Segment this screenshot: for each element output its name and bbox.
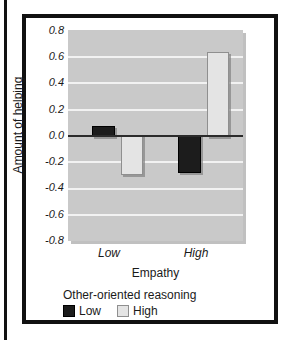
- y-tick-2: 0.4: [26, 77, 64, 88]
- figure-frame-right: [274, 14, 278, 324]
- figure: Amount of helping 0.8 0.6 0.4 0.2 0.0 -0…: [0, 0, 290, 340]
- y-tick-7: -0.6: [26, 209, 64, 220]
- y-tick-1: 0.6: [26, 51, 64, 62]
- bar-high-empathy-low-reasoning: [178, 135, 201, 173]
- legend-swatch-dark-icon: [63, 305, 75, 317]
- y-axis-title: Amount of helping: [11, 60, 25, 190]
- legend: Other-oriented reasoning Low High: [63, 288, 263, 318]
- y-tick-3: 0.2: [26, 104, 64, 115]
- legend-item-low: Low: [63, 304, 101, 318]
- gridline--0.6: [68, 214, 243, 216]
- plot-area: [68, 30, 243, 241]
- legend-label-low: Low: [79, 304, 101, 318]
- legend-title: Other-oriented reasoning: [63, 288, 263, 302]
- y-tick-5: -0.2: [26, 156, 64, 167]
- legend-items: Low High: [63, 304, 263, 318]
- legend-label-high: High: [133, 304, 158, 318]
- x-tick-low: Low: [79, 246, 139, 260]
- y-tick-6: -0.4: [26, 182, 64, 193]
- zero-baseline: [68, 135, 243, 137]
- y-axis-tick-labels: 0.8 0.6 0.4 0.2 0.0 -0.2 -0.4 -0.6 -0.8: [24, 0, 64, 340]
- y-tick-0: 0.8: [26, 25, 64, 36]
- y-tick-4: 0.0: [26, 130, 64, 141]
- figure-outer-left-rule: [4, 0, 7, 340]
- x-axis-title: Empathy: [68, 266, 243, 280]
- bar-high-empathy-high-reasoning: [207, 52, 229, 137]
- bar-low-empathy-high-reasoning: [121, 135, 143, 175]
- legend-item-high: High: [117, 304, 158, 318]
- gridline--0.2: [68, 161, 243, 163]
- gridline--0.4: [68, 188, 243, 190]
- y-tick-8: -0.8: [26, 235, 64, 246]
- legend-swatch-light-icon: [117, 305, 129, 317]
- x-tick-high: High: [166, 246, 226, 260]
